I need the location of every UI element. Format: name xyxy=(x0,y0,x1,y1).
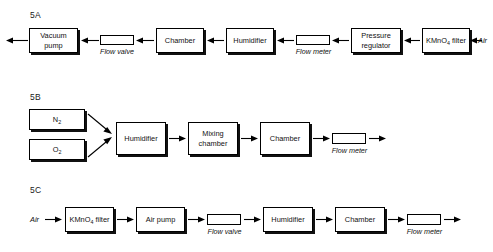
box-flow-valve-5c xyxy=(207,214,241,225)
humidifier-label-5a: Humidifier xyxy=(233,36,266,45)
arrow-5b-mixing-to-chamber xyxy=(241,135,258,142)
arrow-5b-oxygen-to-humidifier xyxy=(88,136,114,158)
caption-flow-meter-5b: Flow meter xyxy=(322,146,377,155)
arrow-5a-filter-to-regulator xyxy=(404,37,420,44)
kmno4-filter-prefix-5a: KMnO xyxy=(426,36,447,45)
terminal-air-5a: Air xyxy=(478,36,487,45)
box-nitrogen: N2 xyxy=(29,109,85,130)
box-chamber-5b: Chamber xyxy=(260,122,310,155)
section-label-5c: 5C xyxy=(30,185,41,195)
arrow-5c-chamber-to-meter xyxy=(388,216,405,223)
box-flow-valve-5a xyxy=(100,35,134,45)
pressure-regulator-label-line2: regulator xyxy=(361,41,391,50)
kmno4-filter-prefix-5c: KMnO xyxy=(70,215,91,224)
oxygen-subscript: 2 xyxy=(58,149,61,155)
arrow-5c-pump-to-valve xyxy=(188,216,205,223)
arrow-5b-outlet xyxy=(369,135,386,142)
vacuum-pump-label-line1: Vacuum xyxy=(40,31,67,40)
chamber-label-5c: Chamber xyxy=(345,215,375,224)
box-oxygen: O2 xyxy=(29,139,85,160)
arrow-5a-chamber-to-valve xyxy=(136,37,154,44)
box-pressure-regulator: Pressure regulator xyxy=(351,28,401,53)
arrow-5c-filter-to-pump xyxy=(117,216,134,223)
kmno4-filter-subscript-5a: 4 xyxy=(447,40,450,46)
mixing-chamber-label-line2: chamber xyxy=(199,139,228,148)
vacuum-pump-label-line2: pump xyxy=(40,41,67,50)
box-chamber-5c: Chamber xyxy=(335,207,385,232)
box-flow-meter-5a xyxy=(296,35,330,45)
box-flow-meter-5c xyxy=(407,214,441,225)
box-vacuum-pump: Vacuum pump xyxy=(29,28,78,53)
arrow-5a-humidifier-to-chamber xyxy=(207,37,224,44)
box-humidifier-5b: Humidifier xyxy=(116,122,166,155)
arrow-5c-humidifier-to-chamber xyxy=(316,216,333,223)
kmno4-filter-suffix-5a: filter xyxy=(450,36,466,45)
arrow-5b-humidifier-to-mixing xyxy=(169,135,186,142)
section-label-5b: 5B xyxy=(30,92,41,102)
flow-diagram-figure: 5A Vacuum pump Flow valve Chamber Humidi… xyxy=(0,0,493,252)
box-humidifier-5a: Humidifier xyxy=(226,28,274,53)
box-kmno4-filter-5c: KMnO4 filter xyxy=(65,207,114,232)
humidifier-label-5c: Humidifier xyxy=(271,215,304,224)
box-chamber-5a: Chamber xyxy=(156,28,204,53)
arrow-5a-meter-to-humidifier xyxy=(277,37,294,44)
arrow-5c-valve-to-humidifier xyxy=(244,216,261,223)
nitrogen-label: N2 xyxy=(53,115,61,124)
arrow-5c-outlet xyxy=(444,216,461,223)
box-mixing-chamber: Mixing chamber xyxy=(188,122,238,155)
box-air-pump: Air pump xyxy=(136,207,185,232)
caption-flow-valve-5c: Flow valve xyxy=(197,227,252,236)
pressure-regulator-label-line1: Pressure xyxy=(361,31,391,40)
caption-flow-valve-5a: Flow valve xyxy=(90,47,144,56)
terminal-air-5c: Air xyxy=(30,215,39,224)
humidifier-label-5b: Humidifier xyxy=(124,134,157,143)
arrow-5b-chamber-to-meter xyxy=(313,135,330,142)
nitrogen-subscript: 2 xyxy=(58,119,61,125)
arrow-5a-outlet xyxy=(6,37,28,44)
arrow-5b-nitrogen-to-humidifier xyxy=(88,114,114,136)
section-label-5a: 5A xyxy=(30,10,41,20)
kmno4-filter-suffix-5c: filter xyxy=(93,215,109,224)
box-humidifier-5c: Humidifier xyxy=(263,207,313,232)
mixing-chamber-label-line1: Mixing xyxy=(199,129,228,138)
arrow-5c-air-inlet xyxy=(45,216,62,223)
air-pump-label: Air pump xyxy=(146,215,176,224)
arrow-5a-valve-to-pump xyxy=(81,37,99,44)
caption-flow-meter-5c: Flow meter xyxy=(397,227,452,236)
box-kmno4-filter-5a: KMnO4 filter xyxy=(422,28,470,53)
box-flow-meter-5b xyxy=(332,133,366,144)
kmno4-filter-label-5a: KMnO4 filter xyxy=(426,36,466,45)
caption-flow-meter-5a: Flow meter xyxy=(286,47,341,56)
chamber-label-5a: Chamber xyxy=(165,36,195,45)
arrow-5a-regulator-to-meter xyxy=(332,37,349,44)
chamber-label-5b: Chamber xyxy=(270,134,300,143)
kmno4-filter-label-5c: KMnO4 filter xyxy=(70,215,110,224)
oxygen-label: O2 xyxy=(53,145,62,154)
